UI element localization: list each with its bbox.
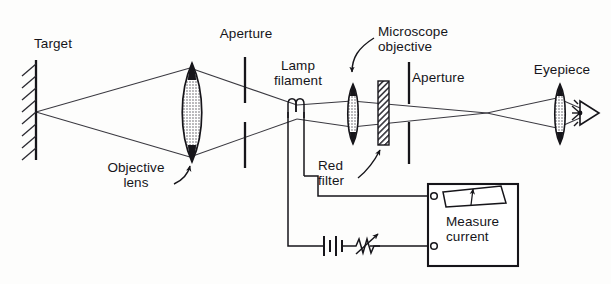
ray-bundle-target-to-filament bbox=[36, 68, 297, 157]
label-target: Target bbox=[18, 36, 88, 51]
label-objective-lens: Objective lens bbox=[92, 160, 180, 190]
red-filter bbox=[378, 81, 389, 145]
ray-bundle-filament-to-eyepiece bbox=[297, 98, 580, 128]
label-red-filter: Red filter bbox=[318, 158, 378, 188]
variable-resistor-symbol bbox=[350, 234, 380, 254]
microscope-objective-lens bbox=[348, 84, 359, 144]
label-aperture-right: Aperture bbox=[412, 70, 492, 85]
target-wall bbox=[22, 60, 36, 160]
label-eyepiece: Eyepiece bbox=[522, 62, 602, 77]
eyepiece-lens bbox=[555, 84, 566, 144]
observer-eye-icon bbox=[572, 100, 599, 126]
label-aperture-left: Aperture bbox=[205, 26, 287, 41]
label-microscope-objective: Microscope objective bbox=[378, 24, 488, 54]
objective-lens bbox=[182, 63, 202, 162]
battery-symbol bbox=[318, 236, 350, 256]
optical-diagram: Target Aperture Objective lens Lamp fila… bbox=[0, 0, 611, 284]
meter-terminal-top bbox=[431, 193, 438, 200]
label-lamp-filament: Lamp filament bbox=[262, 58, 334, 88]
lamp-filament bbox=[288, 99, 304, 196]
label-measure-current: Measure current bbox=[446, 214, 522, 244]
meter-terminal-bottom bbox=[431, 243, 438, 250]
